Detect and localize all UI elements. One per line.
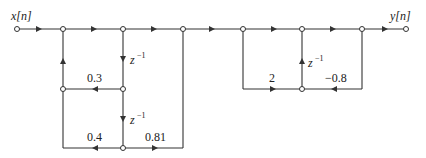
output-node	[404, 27, 409, 32]
coef-0.4: 0.4	[87, 130, 102, 144]
arrow-icon	[91, 26, 97, 32]
arrow-icon	[270, 86, 276, 92]
arrow-icon	[92, 145, 98, 151]
node	[300, 87, 305, 92]
svg-text:z: z	[307, 56, 313, 70]
svg-text:z: z	[129, 113, 135, 127]
arrow-icon	[382, 26, 388, 32]
svg-text:−1: −1	[315, 54, 324, 63]
node	[61, 27, 66, 32]
arrow-icon	[152, 145, 158, 151]
delay-label-2: z −1	[129, 111, 146, 127]
node	[121, 146, 126, 151]
node	[241, 27, 246, 32]
delay-label-3: z −1	[307, 54, 324, 70]
arrow-icon	[92, 86, 98, 92]
svg-text:−1: −1	[137, 111, 146, 120]
node	[121, 27, 126, 32]
node	[300, 27, 305, 32]
arrow-icon	[120, 56, 126, 62]
coef-2: 2	[269, 71, 275, 85]
arrow-icon	[36, 26, 42, 32]
arrow-icon	[330, 26, 336, 32]
arrow-icon	[209, 26, 215, 32]
signal-flow-diagram: x[n] y[n] 0.3 0.4 0.81 2 −0.8 z −1 z −1 …	[0, 0, 426, 158]
svg-text:−1: −1	[137, 51, 146, 60]
arrow-icon	[299, 58, 305, 64]
node	[61, 87, 66, 92]
node	[181, 27, 186, 32]
delay-label-1: z −1	[129, 51, 146, 67]
arrow-icon	[271, 26, 277, 32]
node	[121, 87, 126, 92]
coef-minus-0.8: −0.8	[325, 71, 347, 85]
diagram-svg: x[n] y[n] 0.3 0.4 0.81 2 −0.8 z −1 z −1 …	[0, 0, 426, 158]
svg-text:z: z	[129, 53, 135, 67]
arrow-icon	[151, 26, 157, 32]
input-label: x[n]	[10, 9, 32, 23]
arrow-icon	[120, 116, 126, 122]
coef-0.81: 0.81	[145, 130, 166, 144]
output-label: y[n]	[389, 9, 411, 23]
input-node	[15, 27, 20, 32]
arrow-icon	[331, 86, 337, 92]
node	[360, 27, 365, 32]
branches	[17, 29, 406, 148]
coef-0.3: 0.3	[87, 71, 102, 85]
arrow-icon	[60, 58, 66, 64]
